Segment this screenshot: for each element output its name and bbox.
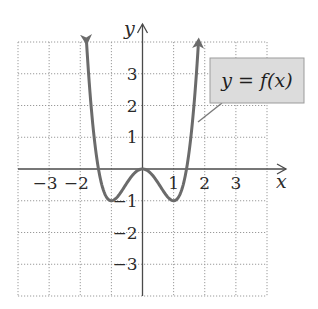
y-tick-label: −2 xyxy=(112,223,137,243)
x-tick-label: −3 xyxy=(33,173,58,193)
function-graph: −3−2123321−1−2−3 x y y = f(x) xyxy=(0,0,318,309)
y-tick-label: 3 xyxy=(127,64,138,84)
y-tick-label: 1 xyxy=(127,127,138,147)
x-tick-label: −2 xyxy=(64,173,89,193)
x-tick-label: 3 xyxy=(230,173,241,193)
legend-callout: y = f(x) xyxy=(198,58,304,122)
y-tick-label: −3 xyxy=(112,254,137,274)
x-axis-label: x xyxy=(276,170,287,192)
y-tick-label: −1 xyxy=(112,191,137,211)
x-tick-label: 2 xyxy=(199,173,210,193)
y-tick-label: 2 xyxy=(127,96,138,116)
y-axis-label: y xyxy=(123,17,135,39)
x-tick-label: 1 xyxy=(168,173,179,193)
legend-label: y = f(x) xyxy=(220,69,292,91)
